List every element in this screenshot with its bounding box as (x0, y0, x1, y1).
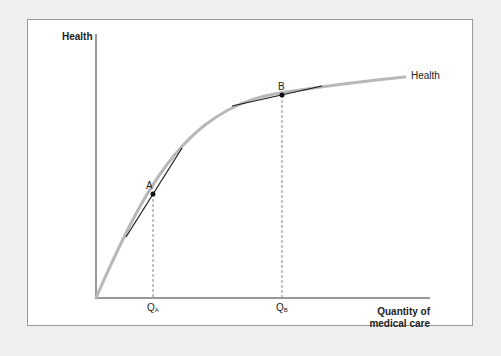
curve-label: Health (411, 70, 440, 81)
x-tick-qa-main: Q (147, 302, 155, 313)
point-b-label: B (278, 81, 285, 92)
tangent-line-b (232, 86, 322, 106)
point-a-marker (151, 192, 156, 197)
point-b-marker (280, 93, 285, 98)
x-tick-qb: QB (276, 302, 288, 313)
x-axis-label-line1: Quantity of (369, 306, 430, 318)
point-a-label: A (146, 180, 153, 191)
x-axis-label: Quantity of medical care (369, 306, 430, 330)
y-axis-label: Health (62, 31, 93, 42)
chart-svg (0, 0, 501, 356)
x-tick-qb-main: Q (276, 302, 284, 313)
health-curve (96, 77, 405, 298)
x-tick-qb-sub: B (284, 307, 288, 313)
x-tick-qa: QA (147, 302, 159, 313)
x-tick-qa-sub: A (155, 307, 159, 313)
x-axis-label-line2: medical care (369, 318, 430, 330)
